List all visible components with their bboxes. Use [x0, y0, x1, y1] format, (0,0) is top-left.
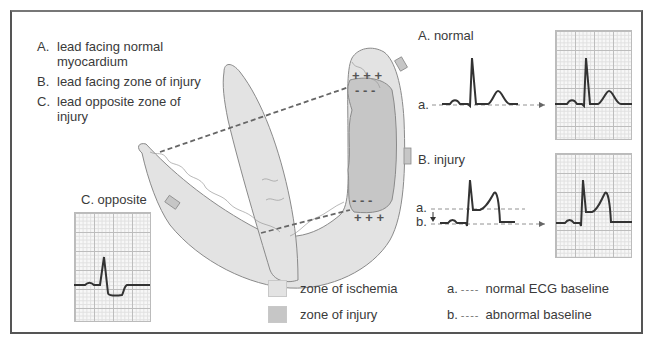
arrow-right-icon	[539, 102, 545, 108]
ecg-trace-normal-grid	[555, 58, 632, 106]
arrow-right-icon	[539, 221, 545, 227]
legend-baseline-a-letter: a.	[447, 281, 458, 296]
legend-injury-label: zone of injury	[300, 307, 377, 322]
heart-diagram: + + + - - - - - - + + +	[0, 0, 660, 350]
ecg-trace-normal	[442, 58, 518, 106]
minus-markers-top: - - -	[355, 83, 375, 98]
dash-icon: ----	[461, 283, 480, 295]
legend-baseline-a: a.----normal ECG baseline	[447, 281, 609, 296]
panel-title-normal: A. normal	[418, 28, 474, 43]
arrow-down-head-icon	[430, 217, 436, 222]
legend-baseline-b-label: abnormal baseline	[486, 307, 592, 322]
ecg-trace-opposite-grid	[74, 257, 150, 296]
swatch-ischemia	[268, 280, 287, 297]
legend-ischemia-label: zone of ischemia	[300, 281, 398, 296]
ecg-trace-injury	[440, 180, 515, 226]
electrode-b-icon	[404, 148, 411, 164]
legend-baseline-a-label: normal ECG baseline	[486, 281, 610, 296]
baseline-label-a-normal: a.	[418, 97, 429, 112]
plus-markers-top: + + +	[352, 68, 382, 83]
panel-title-opposite: C. opposite	[81, 192, 147, 207]
minus-markers-bottom: - - -	[352, 193, 372, 208]
swatch-injury	[268, 306, 287, 323]
baseline-label-b-injury: b.	[416, 214, 427, 229]
plus-markers-bottom: + + +	[354, 210, 384, 225]
panel-title-injury: B. injury	[418, 152, 465, 167]
legend-baseline-b: b.----abnormal baseline	[447, 307, 592, 322]
baseline-label-a-injury: a.	[416, 200, 427, 215]
legend-baseline-b-letter: b.	[447, 307, 458, 322]
dash-icon: ----	[461, 309, 480, 321]
electrode-a-icon	[395, 57, 408, 71]
ecg-trace-injury-grid	[556, 180, 632, 226]
